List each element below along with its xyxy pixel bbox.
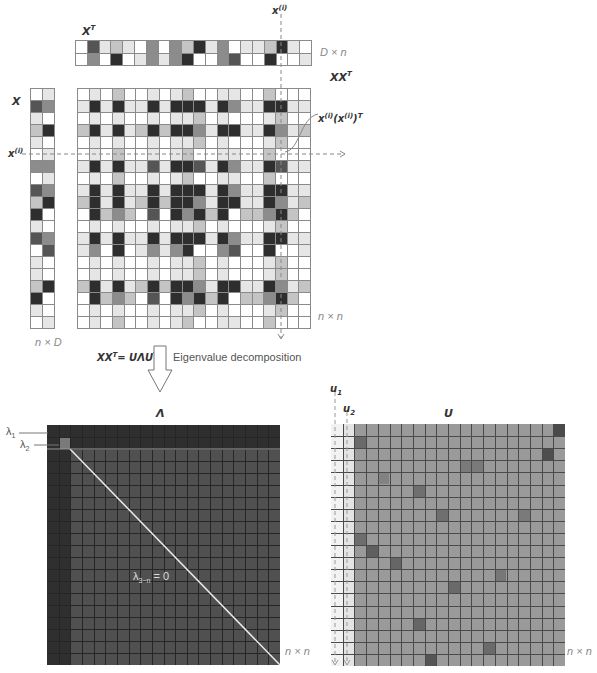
matrix-cell	[78, 173, 90, 185]
matrix-cell	[90, 257, 102, 269]
matrix-cell	[218, 293, 230, 305]
matrix-cell	[43, 113, 55, 125]
matrix-cell	[288, 245, 300, 257]
matrix-cell	[264, 149, 276, 161]
matrix-cell	[253, 317, 265, 329]
matrix-cell	[90, 245, 102, 257]
matrix-cell	[299, 317, 311, 329]
xxt-label: XXT	[330, 70, 352, 84]
matrix-cell	[78, 257, 90, 269]
matrix-cell	[299, 257, 311, 269]
matrix-cell	[160, 305, 172, 317]
matrix-cell	[171, 161, 183, 173]
matrix-cell	[90, 233, 102, 245]
matrix-cell	[31, 185, 43, 197]
matrix-cell	[171, 245, 183, 257]
matrix-cell	[160, 257, 172, 269]
matrix-cell	[125, 185, 137, 197]
matrix-cell	[218, 245, 230, 257]
matrix-cell	[113, 257, 125, 269]
matrix-cell	[160, 137, 172, 149]
matrix-cell	[171, 317, 183, 329]
matrix-cell	[288, 221, 300, 233]
matrix-cell	[113, 245, 125, 257]
matrix-cell	[100, 54, 112, 67]
matrix-cell	[135, 54, 147, 67]
matrix-cell	[229, 221, 241, 233]
lambda2-label: λ2	[20, 438, 29, 452]
matrix-cell	[300, 41, 312, 54]
matrix-cell	[113, 233, 125, 245]
matrix-cell	[182, 54, 194, 67]
matrix-cell	[276, 185, 288, 197]
matrix-cell	[253, 149, 265, 161]
matrix-cell	[300, 54, 312, 67]
matrix-cell	[160, 209, 172, 221]
matrix-cell	[229, 161, 241, 173]
matrix-cell	[218, 221, 230, 233]
lambda-zero-label: λ3~n = 0	[133, 570, 169, 584]
matrix-cell	[111, 54, 123, 67]
matrix-cell	[206, 293, 218, 305]
matrix-cell	[101, 221, 113, 233]
matrix-cell	[113, 221, 125, 233]
matrix-cell	[136, 161, 148, 173]
matrix-cell	[90, 149, 102, 161]
matrix-cell	[43, 209, 55, 221]
matrix-cell	[299, 233, 311, 245]
matrix-cell	[253, 233, 265, 245]
matrix-cell	[218, 269, 230, 281]
matrix-cell	[123, 54, 135, 67]
matrix-cell	[299, 245, 311, 257]
matrix-cell	[78, 209, 90, 221]
matrix-cell	[171, 293, 183, 305]
matrix-cell	[125, 137, 137, 149]
matrix-cell	[159, 41, 171, 54]
matrix-cell	[218, 137, 230, 149]
matrix-cell	[43, 221, 55, 233]
matrix-cell	[136, 89, 148, 101]
matrix-cell	[241, 41, 253, 54]
matrix-cell	[113, 125, 125, 137]
matrix-cell	[194, 113, 206, 125]
matrix-cell	[125, 257, 137, 269]
matrix-cell	[31, 89, 43, 101]
matrix-cell	[43, 125, 55, 137]
matrix-cell	[148, 149, 160, 161]
matrix-cell	[206, 209, 218, 221]
matrix-cell	[101, 197, 113, 209]
matrix-cell	[241, 89, 253, 101]
matrix-cell	[288, 161, 300, 173]
xi-column-label: x(i)	[272, 4, 287, 16]
matrix-cell	[288, 317, 300, 329]
matrix-cell	[125, 197, 137, 209]
matrix-cell	[31, 101, 43, 113]
matrix-cell	[78, 317, 90, 329]
matrix-cell	[147, 41, 159, 54]
matrix-cell	[264, 269, 276, 281]
matrix-cell	[253, 41, 265, 54]
matrix-cell	[218, 257, 230, 269]
matrix-cell	[148, 221, 160, 233]
matrix-cell	[78, 137, 90, 149]
matrix-cell	[113, 209, 125, 221]
matrix-cell	[253, 293, 265, 305]
matrix-cell	[160, 269, 172, 281]
matrix-cell	[206, 113, 218, 125]
xt-dimension: D × n	[320, 46, 347, 58]
matrix-cell	[78, 113, 90, 125]
matrix-cell	[171, 173, 183, 185]
matrix-cell	[241, 209, 253, 221]
matrix-cell	[136, 113, 148, 125]
matrix-cell	[78, 281, 90, 293]
matrix-cell	[148, 161, 160, 173]
matrix-cell	[183, 281, 195, 293]
matrix-cell	[241, 221, 253, 233]
matrix-cell	[183, 161, 195, 173]
matrix-cell	[90, 173, 102, 185]
matrix-cell	[229, 125, 241, 137]
matrix-cell	[125, 245, 137, 257]
matrix-cell	[299, 149, 311, 161]
matrix-cell	[113, 173, 125, 185]
matrix-cell	[43, 317, 55, 329]
